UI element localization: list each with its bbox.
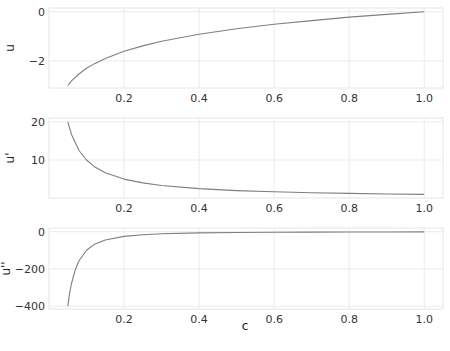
y-tick-label: −200 <box>15 263 45 276</box>
y-axis-label: u'' <box>0 261 13 275</box>
chart-figure: 0.20.40.60.81.00−2u 0.20.40.60.81.02010u… <box>0 0 450 351</box>
y-tick-label: −400 <box>15 300 45 313</box>
y-tick-label: 20 <box>31 116 45 129</box>
plot-area <box>49 8 443 88</box>
x-axis-label: c <box>242 319 249 333</box>
y-axis-label: u' <box>3 153 17 164</box>
x-tick-label: 0.2 <box>115 92 133 105</box>
plot-area <box>49 118 443 198</box>
x-tick-label: 0.6 <box>265 92 283 105</box>
x-tick-label: 0.6 <box>265 202 283 215</box>
x-tick-label: 0.4 <box>190 202 208 215</box>
x-tick-label: 0.4 <box>190 313 208 326</box>
x-tick-label: 1.0 <box>415 313 433 326</box>
x-tick-label: 1.0 <box>415 92 433 105</box>
x-tick-label: 0.8 <box>340 92 358 105</box>
x-tick-label: 1.0 <box>415 202 433 215</box>
x-tick-label: 0.4 <box>190 92 208 105</box>
subplot-u-double-prime: 0.20.40.60.81.00−200−400u'' <box>0 226 443 326</box>
y-tick-label: 10 <box>31 154 45 167</box>
y-tick-label: 0 <box>38 226 45 239</box>
subplot-u: 0.20.40.60.81.00−2u <box>3 6 443 105</box>
x-tick-label: 0.8 <box>340 313 358 326</box>
x-tick-label: 0.2 <box>115 202 133 215</box>
subplot-u-prime: 0.20.40.60.81.02010u' <box>3 116 443 215</box>
y-axis-label: u <box>3 44 17 52</box>
y-tick-label: 0 <box>38 6 45 19</box>
x-tick-label: 0.6 <box>265 313 283 326</box>
y-tick-label: −2 <box>29 55 45 68</box>
x-tick-label: 0.8 <box>340 202 358 215</box>
x-tick-label: 0.2 <box>115 313 133 326</box>
